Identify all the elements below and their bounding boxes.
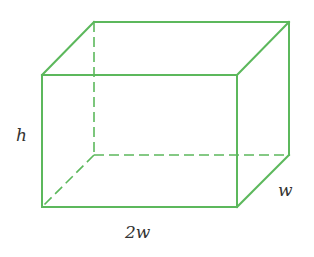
length-label: 2w xyxy=(124,222,151,242)
front-face xyxy=(42,75,237,207)
hidden-edge-bottom-left-depth xyxy=(42,155,94,207)
edge-top-left-depth xyxy=(42,22,94,75)
depth-label: w xyxy=(278,180,293,200)
rectangular-prism-diagram: h 2w w xyxy=(0,0,314,257)
height-label: h xyxy=(16,125,27,145)
edge-top-right-depth xyxy=(237,22,289,75)
